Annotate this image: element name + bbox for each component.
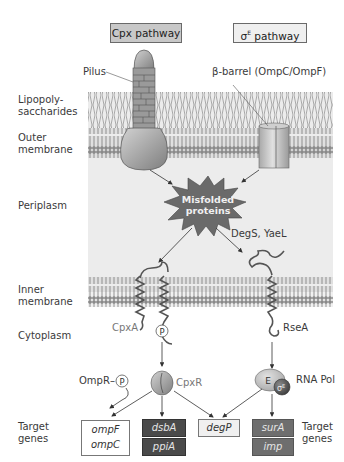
gene-dsbA: dsbA bbox=[142, 419, 186, 437]
gene-ompC: ompC bbox=[82, 437, 129, 452]
target-genes-label-left: Target genes bbox=[18, 421, 49, 445]
rsea-label: RseA bbox=[283, 322, 308, 334]
gene-degP: degP bbox=[198, 419, 240, 437]
gene-box-ompF-ompC: ompF ompC bbox=[81, 420, 130, 456]
lps-label: Lipopoly- saccharides bbox=[18, 94, 77, 118]
svg-text:P: P bbox=[119, 377, 124, 387]
svg-text:P: P bbox=[159, 327, 164, 337]
cpxa-label: CpxA bbox=[112, 322, 138, 334]
pilus-leader-line bbox=[106, 72, 133, 82]
periplasm-label: Periplasm bbox=[18, 200, 67, 212]
ompr-label: OmpR– bbox=[79, 375, 115, 387]
target-genes-label-right: Target genes bbox=[302, 421, 333, 445]
gene-imp: imp bbox=[252, 438, 294, 456]
misfolded-proteins-label: Misfolded proteins bbox=[178, 194, 238, 216]
outer-membrane-label: Outer membrane bbox=[18, 132, 73, 156]
beta-barrel-label: β-barrel (OmpC/OmpF) bbox=[212, 66, 326, 78]
rna-polymerase-icon bbox=[255, 369, 290, 395]
gene-ompF: ompF bbox=[82, 422, 129, 437]
gene-ppiA: ppiA bbox=[142, 438, 186, 456]
lipopolysaccharide-layer bbox=[88, 92, 333, 128]
pilus-label: Pilus bbox=[83, 66, 106, 78]
gene-surA: surA bbox=[252, 419, 294, 437]
proteases-label: DegS, YaeL bbox=[231, 228, 287, 240]
inner-membrane-label: Inner membrane bbox=[18, 284, 73, 308]
svg-text:E: E bbox=[265, 376, 271, 386]
cpxr-response-regulator-icon bbox=[151, 371, 173, 395]
inner-membrane-bilayer bbox=[88, 277, 333, 307]
beta-barrel-icon bbox=[259, 123, 289, 168]
rna-pol-label: RNA Pol bbox=[296, 374, 335, 386]
cpxr-label: CpxR bbox=[176, 377, 202, 389]
cytoplasm-label: Cytoplasm bbox=[18, 330, 71, 342]
